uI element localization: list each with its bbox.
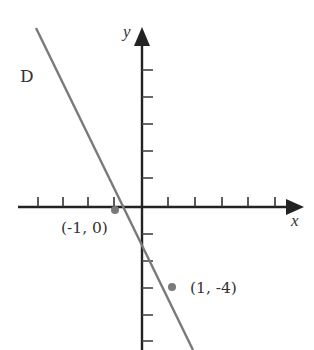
line-label: D [20,66,34,86]
y-axis-label: y [121,22,131,41]
x-axis-label: x [290,211,299,230]
coordinate-plane: D y x (-1, 0) (1, -4) [0,0,314,350]
y-axis [134,27,153,350]
point-label-neg1-0: (-1, 0) [61,219,108,237]
point-label-1-neg4: (1, -4) [190,279,237,297]
y-axis-ticks [142,70,153,341]
x-axis-ticks [38,197,275,207]
point-1-neg4 [168,283,176,291]
point-neg1-0 [111,206,119,214]
x-axis [18,197,304,215]
y-axis-arrow-icon [134,27,150,46]
line-d [36,28,193,350]
